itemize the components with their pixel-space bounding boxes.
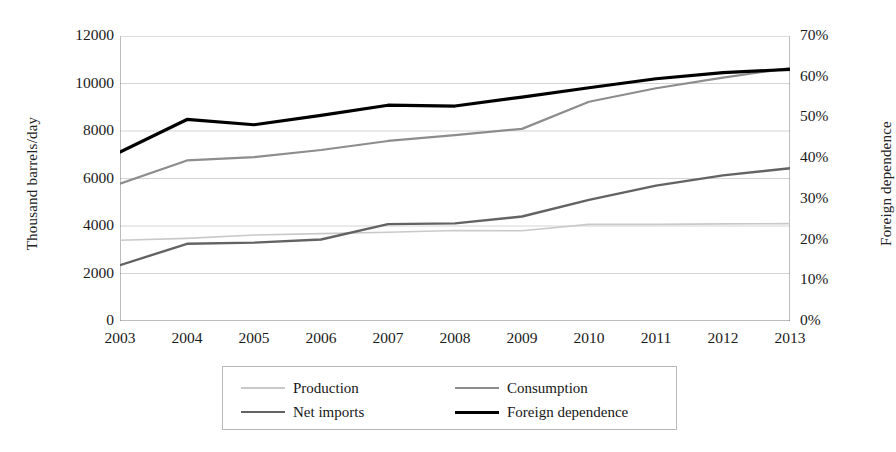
right-tick-label: 20% (800, 230, 862, 248)
left-tick-label: 12000 (52, 26, 114, 44)
x-tick-label: 2010 (559, 329, 619, 347)
legend-swatch-line (455, 411, 499, 414)
legend-item[interactable]: Consumption (455, 376, 588, 400)
legend-swatch-line (241, 387, 285, 389)
right-tick-label: 50% (800, 107, 862, 125)
x-tick-label: 2005 (224, 329, 284, 347)
left-tick-label: 8000 (52, 121, 114, 139)
left-axis-title: Thousand barrels/day (24, 74, 41, 294)
right-tick-label: 0% (800, 311, 862, 329)
legend-swatch-line (241, 411, 285, 413)
series-line-consumption (120, 68, 790, 184)
right-tick-label: 10% (800, 270, 862, 288)
left-tick-label: 10000 (52, 74, 114, 92)
x-tick-label: 2012 (693, 329, 753, 347)
x-tick-label: 2004 (157, 329, 217, 347)
chart-svg (120, 36, 790, 321)
left-tick-label: 6000 (52, 169, 114, 187)
right-tick-label: 30% (800, 189, 862, 207)
chart-legend: ProductionConsumptionNet importsForeign … (222, 366, 677, 430)
right-axis-title: Foreign dependence (878, 74, 895, 294)
legend-label: Foreign dependence (507, 404, 628, 421)
x-tick-label: 2008 (425, 329, 485, 347)
series-line-foreign-dependence (120, 69, 790, 152)
x-tick-label: 2011 (626, 329, 686, 347)
x-tick-label: 2003 (90, 329, 150, 347)
x-tick-label: 2009 (492, 329, 552, 347)
left-tick-label: 4000 (52, 216, 114, 234)
plot-area (120, 36, 790, 321)
legend-label: Production (293, 380, 359, 397)
series-line-net-imports (120, 168, 790, 265)
x-tick-label: 2007 (358, 329, 418, 347)
legend-item[interactable]: Production (241, 376, 359, 400)
legend-item[interactable]: Net imports (241, 400, 364, 424)
legend-item[interactable]: Foreign dependence (455, 400, 628, 424)
left-tick-label: 2000 (52, 264, 114, 282)
x-tick-label: 2006 (291, 329, 351, 347)
legend-label: Consumption (507, 380, 588, 397)
x-tick-label: 2013 (760, 329, 820, 347)
right-tick-label: 60% (800, 67, 862, 85)
chart-figure: Thousand barrels/day Foreign dependence … (0, 0, 896, 452)
right-tick-label: 40% (800, 148, 862, 166)
right-tick-label: 70% (800, 26, 862, 44)
left-tick-label: 0 (52, 311, 114, 329)
legend-label: Net imports (293, 404, 364, 421)
legend-swatch-line (455, 387, 499, 389)
